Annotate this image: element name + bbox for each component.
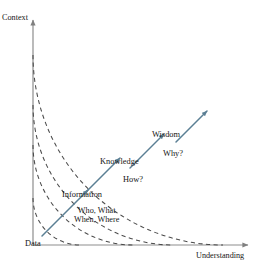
tier-label-information: Information [62,191,102,200]
figure-caption-strip [0,264,267,278]
axes-group [33,20,248,245]
dikw-pyramid-diagram: Context Understanding Data Information W… [0,0,267,278]
y-axis-label: Context [2,14,28,23]
diagram-canvas [0,0,267,278]
tier-label-wisdom: Wisdom [152,131,180,140]
tier-label-data: Data [25,240,41,249]
knowledge-question: How? [123,176,143,185]
tier-label-knowledge: Knowledge [100,158,139,167]
arrow-wisdom-outward [176,111,207,142]
progression-arrows-group [42,111,207,236]
information-question-line-2: When, Where [74,216,119,225]
x-axis-label: Understanding [196,252,244,261]
wisdom-question: Why? [163,150,183,159]
information-questions: Who, What When, Where [74,207,119,224]
